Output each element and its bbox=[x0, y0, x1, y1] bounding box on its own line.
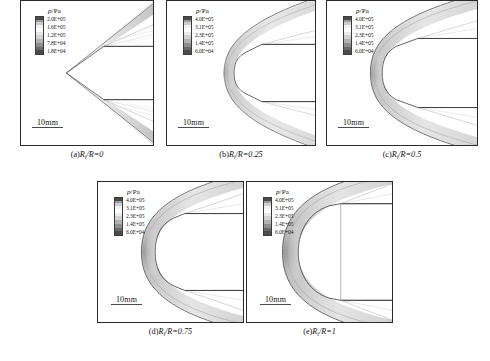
panel-b-scale-bar: 10mm bbox=[178, 118, 209, 129]
panel-b-caption: (b)Ri/R=0.25 bbox=[219, 150, 262, 160]
panel-b-legend-title: p/Pa bbox=[196, 7, 209, 15]
panel-c-colorbar-gradient bbox=[343, 16, 352, 55]
panel-d-caption: (d)Ri/R=0.75 bbox=[149, 327, 192, 337]
panel-c-scale-label: 10mm bbox=[343, 118, 364, 127]
panel-a-scale-bar: 10mm bbox=[32, 118, 63, 129]
panel-a-tick-0: 2.0E+05 bbox=[47, 16, 65, 23]
panel-e-plot-frame: p/Pa 4.0E+05 3.1E+05 2.3E+05 1.4E+05 6.0… bbox=[246, 181, 393, 323]
panel-c-tick-2: 2.3E+05 bbox=[355, 32, 373, 39]
panel-c-caption-rest: /R=0.5 bbox=[398, 150, 421, 159]
panel-a-scale-rule bbox=[32, 127, 63, 128]
panel-d-scale-bar: 10mm bbox=[111, 295, 142, 306]
panel-d-tick-1: 3.1E+05 bbox=[126, 205, 144, 212]
panel-c-scale-bar: 10mm bbox=[338, 118, 369, 129]
panel-e-colorbar-ticks: 4.0E+05 3.1E+05 2.3E+05 1.4E+05 6.0E+04 bbox=[275, 197, 293, 236]
panel-b-legend-title-unit: /Pa bbox=[200, 7, 209, 15]
panel-d-caption-sub: i bbox=[163, 331, 165, 337]
panel-b-scale-label: 10mm bbox=[183, 118, 204, 127]
panel-e-caption: (e)Ri/R=1 bbox=[303, 327, 336, 337]
panel-row-top: p/Pa 2.0E+05 1.6E+05 1.2E+05 7.8E+04 1.8… bbox=[0, 0, 490, 178]
panel-e-tick-2: 2.3E+05 bbox=[275, 213, 293, 220]
panel-d-legend-title: p/Pa bbox=[127, 188, 140, 196]
panel-e-colorbar-legend: p/Pa 4.0E+05 3.1E+05 2.3E+05 1.4E+05 6.0… bbox=[263, 188, 293, 236]
panel-e-caption-sub: i bbox=[317, 331, 319, 337]
panel-e-tick-4: 6.0E+04 bbox=[275, 229, 293, 236]
panel-d-colorbar-ticks: 4.0E+05 3.1E+05 2.3E+05 1.4E+05 6.0E+04 bbox=[126, 197, 144, 236]
panel-a-tick-3: 7.8E+04 bbox=[47, 40, 65, 47]
panel-b-colorbar-ticks: 4.0E+05 3.1E+05 2.3E+05 1.4E+05 6.0E+04 bbox=[195, 16, 213, 55]
panel-a-colorbar-legend: p/Pa 2.0E+05 1.6E+05 1.2E+05 7.8E+04 1.8… bbox=[35, 7, 65, 55]
panel-a-scale-label: 10mm bbox=[37, 118, 58, 127]
panel-c-colorbar-legend: p/Pa 4.0E+05 3.1E+05 2.3E+05 1.4E+05 6.0… bbox=[343, 7, 373, 55]
panel-d-caption-rest: /R=0.75 bbox=[165, 327, 192, 336]
panel-e-scale-bar: 10mm bbox=[260, 295, 291, 306]
panel-c-caption-prefix: (c) bbox=[383, 150, 392, 159]
panel-c-plot-frame: p/Pa 4.0E+05 3.1E+05 2.3E+05 1.4E+05 6.0… bbox=[326, 0, 478, 146]
panel-b-tick-4: 6.0E+04 bbox=[195, 48, 213, 55]
panel-b-tick-2: 2.3E+05 bbox=[195, 32, 213, 39]
panel-c-scale-rule bbox=[338, 127, 369, 128]
panel-e-tick-0: 4.0E+05 bbox=[275, 197, 293, 204]
panel-e-scale-rule bbox=[260, 304, 291, 305]
panel-d-tick-3: 1.4E+05 bbox=[126, 221, 144, 228]
panel-d-colorbar-legend: p/Pa 4.0E+05 3.1E+05 2.3E+05 1.4E+05 6.0… bbox=[114, 188, 144, 236]
panel-b-caption-rest: /R=0.25 bbox=[235, 150, 262, 159]
panel-c-tick-3: 1.4E+05 bbox=[355, 40, 373, 47]
panel-a-legend-title-unit: /Pa bbox=[52, 7, 61, 15]
panel-b-tick-1: 3.1E+05 bbox=[195, 24, 213, 31]
figure-multi-panel-pressure-contours: p/Pa 2.0E+05 1.6E+05 1.2E+05 7.8E+04 1.8… bbox=[0, 0, 490, 361]
panel-d-tick-0: 4.0E+05 bbox=[126, 197, 144, 204]
panel-a-colorbar-gradient bbox=[35, 16, 44, 55]
panel-a-tick-2: 1.2E+05 bbox=[47, 32, 65, 39]
panel-e: p/Pa 4.0E+05 3.1E+05 2.3E+05 1.4E+05 6.0… bbox=[246, 181, 393, 361]
panel-d-scale-rule bbox=[111, 304, 142, 305]
panel-e-legend-title: p/Pa bbox=[276, 188, 289, 196]
panel-d: p/Pa 4.0E+05 3.1E+05 2.3E+05 1.4E+05 6.0… bbox=[97, 181, 244, 361]
panel-d-tick-4: 6.0E+04 bbox=[126, 229, 144, 236]
panel-c-tick-4: 6.0E+04 bbox=[355, 48, 373, 55]
panel-a-colorbar-ticks: 2.0E+05 1.6E+05 1.2E+05 7.8E+04 1.8E+04 bbox=[47, 16, 65, 55]
panel-a-caption: (a)Ri/R=0 bbox=[71, 150, 104, 160]
panel-d-scale-label: 10mm bbox=[116, 295, 137, 304]
panel-d-caption-prefix: (d) bbox=[149, 327, 159, 336]
panel-b-colorbar-legend: p/Pa 4.0E+05 3.1E+05 2.3E+05 1.4E+05 6.0… bbox=[183, 7, 213, 55]
panel-c: p/Pa 4.0E+05 3.1E+05 2.3E+05 1.4E+05 6.0… bbox=[326, 0, 478, 178]
panel-a-tick-1: 1.6E+05 bbox=[47, 24, 65, 31]
panel-a-legend-title: p/Pa bbox=[48, 7, 61, 15]
panel-d-plot-frame: p/Pa 4.0E+05 3.1E+05 2.3E+05 1.4E+05 6.0… bbox=[97, 181, 244, 323]
panel-a-caption-prefix: (a) bbox=[71, 150, 80, 159]
panel-e-caption-prefix: (e) bbox=[303, 327, 312, 336]
panel-row-bottom: p/Pa 4.0E+05 3.1E+05 2.3E+05 1.4E+05 6.0… bbox=[0, 181, 490, 361]
panel-b-caption-prefix: (b) bbox=[219, 150, 229, 159]
panel-c-tick-1: 3.1E+05 bbox=[355, 24, 373, 31]
panel-a-plot-frame: p/Pa 2.0E+05 1.6E+05 1.2E+05 7.8E+04 1.8… bbox=[20, 0, 154, 146]
panel-b: p/Pa 4.0E+05 3.1E+05 2.3E+05 1.4E+05 6.0… bbox=[166, 0, 316, 178]
panel-d-tick-2: 2.3E+05 bbox=[126, 213, 144, 220]
panel-c-tick-0: 4.0E+05 bbox=[355, 16, 373, 23]
panel-c-colorbar-ticks: 4.0E+05 3.1E+05 2.3E+05 1.4E+05 6.0E+04 bbox=[355, 16, 373, 55]
panel-e-colorbar-gradient bbox=[263, 197, 272, 236]
panel-a-tick-4: 1.8E+04 bbox=[47, 48, 65, 55]
panel-c-legend-title: p/Pa bbox=[356, 7, 369, 15]
panel-c-caption: (c)Ri/R=0.5 bbox=[383, 150, 422, 160]
panel-c-legend-title-unit: /Pa bbox=[360, 7, 369, 15]
panel-a: p/Pa 2.0E+05 1.6E+05 1.2E+05 7.8E+04 1.8… bbox=[20, 0, 154, 178]
panel-b-colorbar-gradient bbox=[183, 16, 192, 55]
panel-e-caption-rest: /R=1 bbox=[319, 327, 336, 336]
panel-e-tick-3: 1.4E+05 bbox=[275, 221, 293, 228]
panel-e-tick-1: 3.1E+05 bbox=[275, 205, 293, 212]
panel-b-plot-frame: p/Pa 4.0E+05 3.1E+05 2.3E+05 1.4E+05 6.0… bbox=[166, 0, 316, 146]
panel-d-colorbar-gradient bbox=[114, 197, 123, 236]
panel-d-legend-title-unit: /Pa bbox=[131, 188, 140, 196]
panel-b-tick-3: 1.4E+05 bbox=[195, 40, 213, 47]
panel-c-caption-var: R bbox=[392, 150, 397, 159]
panel-a-caption-rest: /R=0 bbox=[86, 150, 103, 159]
panel-b-scale-rule bbox=[178, 127, 209, 128]
panel-b-tick-0: 4.0E+05 bbox=[195, 16, 213, 23]
panel-e-legend-title-unit: /Pa bbox=[280, 188, 289, 196]
panel-e-scale-label: 10mm bbox=[265, 295, 286, 304]
